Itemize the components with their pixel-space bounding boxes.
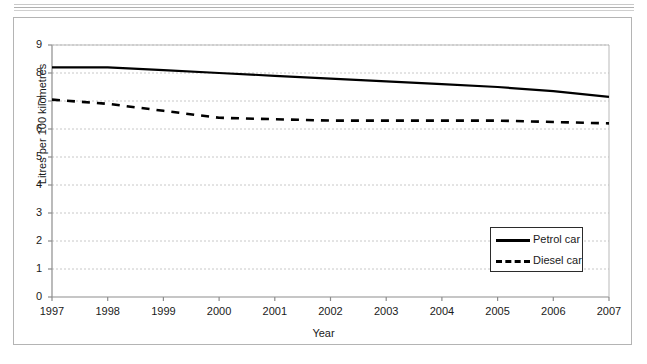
x-tick-label-2004: 2004 xyxy=(416,305,468,317)
legend-swatch-solid xyxy=(496,239,530,242)
legend-item-diesel-car: Diesel car xyxy=(491,250,582,272)
data-series-group xyxy=(52,67,609,123)
x-tick-label-2002: 2002 xyxy=(305,305,357,317)
x-tick-label-2007: 2007 xyxy=(583,305,635,317)
y-tick-label-2: 2 xyxy=(24,234,42,246)
y-tick-label-0: 0 xyxy=(24,290,42,302)
x-tick-label-1998: 1998 xyxy=(82,305,134,317)
y-axis-title: Litres per 100 kilometres xyxy=(36,44,48,204)
y-tick-label-1: 1 xyxy=(24,262,42,274)
x-tick-label-1999: 1999 xyxy=(137,305,189,317)
y-tick-label-3: 3 xyxy=(24,206,42,218)
legend-label-petrol-car: Petrol car xyxy=(533,233,580,245)
legend-swatch-dashed xyxy=(496,260,530,263)
legend-item-petrol-car: Petrol car xyxy=(491,229,582,251)
chart-legend: Petrol car Diesel car xyxy=(490,227,583,272)
x-tick-label-2006: 2006 xyxy=(527,305,579,317)
x-tick-label-2003: 2003 xyxy=(360,305,412,317)
x-tick-label-2005: 2005 xyxy=(472,305,524,317)
line-chart: 0123456789 19971998199920002001200220032… xyxy=(0,0,647,364)
x-axis-title: Year xyxy=(0,327,647,339)
x-tick-label-2000: 2000 xyxy=(193,305,245,317)
x-tick-label-1997: 1997 xyxy=(26,305,78,317)
series-line-diesel-car xyxy=(52,100,609,124)
legend-label-diesel-car: Diesel car xyxy=(533,254,582,266)
series-line-petrol-car xyxy=(52,67,609,96)
x-tick-label-2001: 2001 xyxy=(249,305,301,317)
